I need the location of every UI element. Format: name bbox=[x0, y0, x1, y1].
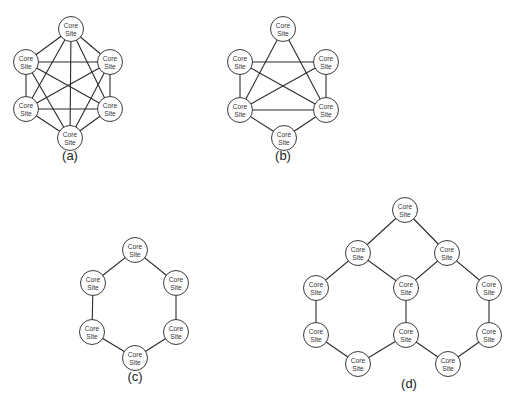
node-circle bbox=[58, 126, 83, 151]
node-label-line1: Core bbox=[351, 246, 366, 253]
core-site-node-left-mid: CoreSite bbox=[304, 276, 329, 301]
node-label-line1: Core bbox=[277, 131, 292, 138]
core-site-node-right-mid: CoreSite bbox=[477, 276, 502, 301]
node-circle bbox=[314, 50, 339, 75]
node-label-line2: Site bbox=[104, 63, 116, 70]
node-circle bbox=[436, 352, 461, 377]
node-label-line2: Site bbox=[320, 63, 332, 70]
node-circle bbox=[81, 271, 106, 296]
diagram-partially-meshed: CoreSiteCoreSiteCoreSiteCoreSiteCoreSite… bbox=[228, 17, 339, 164]
node-circle bbox=[98, 50, 123, 75]
core-site-node-center: CoreSite bbox=[394, 276, 419, 301]
node-circle bbox=[164, 271, 189, 296]
diagram-caption-d: (d) bbox=[401, 376, 417, 391]
node-label-line1: Core bbox=[64, 22, 79, 29]
node-circle bbox=[271, 17, 296, 42]
node-label-line2: Site bbox=[352, 365, 364, 372]
node-circle bbox=[435, 241, 460, 266]
node-label-line1: Core bbox=[319, 55, 334, 62]
node-circle bbox=[164, 320, 189, 345]
core-site-node-top: CoreSite bbox=[393, 198, 418, 223]
core-site-node-upper-left: CoreSite bbox=[228, 50, 253, 75]
node-label-line1: Core bbox=[351, 357, 366, 364]
node-label-line1: Core bbox=[233, 55, 248, 62]
node-label-line1: Core bbox=[398, 203, 413, 210]
diagram-fully-meshed: CoreSiteCoreSiteCoreSiteCoreSiteCoreSite… bbox=[14, 17, 123, 164]
node-label-line1: Core bbox=[19, 102, 34, 109]
core-site-node-bottom-left: CoreSite bbox=[346, 352, 371, 377]
node-label-line2: Site bbox=[234, 63, 246, 70]
diagram-ring: CoreSiteCoreSiteCoreSiteCoreSiteCoreSite… bbox=[80, 238, 189, 385]
diagram-caption-b: (b) bbox=[275, 148, 291, 163]
node-label-line2: Site bbox=[352, 254, 364, 261]
nodes: CoreSiteCoreSiteCoreSiteCoreSiteCoreSite… bbox=[80, 238, 189, 371]
node-label-line2: Site bbox=[86, 333, 98, 340]
node-circle bbox=[123, 346, 148, 371]
node-label-line2: Site bbox=[483, 289, 495, 296]
edges bbox=[240, 29, 326, 138]
core-site-node-bottom: CoreSite bbox=[272, 126, 297, 151]
core-site-node-upper-right: CoreSite bbox=[435, 241, 460, 266]
node-label-line1: Core bbox=[482, 281, 497, 288]
node-label-line2: Site bbox=[399, 211, 411, 218]
node-label-line2: Site bbox=[400, 336, 412, 343]
node-label-line1: Core bbox=[276, 22, 291, 29]
node-label-line2: Site bbox=[20, 110, 32, 117]
node-label-line2: Site bbox=[310, 336, 322, 343]
core-site-node-top: CoreSite bbox=[123, 238, 148, 263]
node-circle bbox=[98, 97, 123, 122]
node-circle bbox=[314, 98, 339, 123]
node-label-line2: Site bbox=[20, 63, 32, 70]
nodes: CoreSiteCoreSiteCoreSiteCoreSiteCoreSite… bbox=[228, 17, 339, 151]
node-circle bbox=[346, 241, 371, 266]
node-label-line2: Site bbox=[441, 254, 453, 261]
node-circle bbox=[123, 238, 148, 263]
node-label-line1: Core bbox=[85, 325, 100, 332]
node-label-line2: Site bbox=[310, 289, 322, 296]
node-circle bbox=[59, 17, 84, 42]
node-label-line1: Core bbox=[86, 276, 101, 283]
node-circle bbox=[304, 323, 329, 348]
core-site-node-left-lower: CoreSite bbox=[304, 323, 329, 348]
node-label-line2: Site bbox=[234, 111, 246, 118]
core-site-node-right-lower: CoreSite bbox=[477, 323, 502, 348]
core-site-node-bottom: CoreSite bbox=[58, 126, 83, 151]
node-label-line1: Core bbox=[128, 243, 143, 250]
core-site-node-lower-right: CoreSite bbox=[314, 98, 339, 123]
core-site-node-upper-right: CoreSite bbox=[98, 50, 123, 75]
core-site-node-center-lower: CoreSite bbox=[394, 323, 419, 348]
node-label-line1: Core bbox=[309, 328, 324, 335]
node-label-line1: Core bbox=[103, 102, 118, 109]
node-label-line1: Core bbox=[319, 103, 334, 110]
node-label-line2: Site bbox=[64, 139, 76, 146]
node-circle bbox=[228, 98, 253, 123]
node-label-line1: Core bbox=[440, 246, 455, 253]
node-circle bbox=[393, 198, 418, 223]
core-site-node-bottom-right: CoreSite bbox=[436, 352, 461, 377]
node-circle bbox=[14, 97, 39, 122]
node-circle bbox=[14, 50, 39, 75]
node-label-line1: Core bbox=[399, 281, 414, 288]
node-label-line2: Site bbox=[104, 110, 116, 117]
node-circle bbox=[272, 126, 297, 151]
node-circle bbox=[394, 323, 419, 348]
node-label-line2: Site bbox=[170, 333, 182, 340]
diagram-caption-c: (c) bbox=[127, 369, 142, 384]
node-circle bbox=[477, 276, 502, 301]
edges bbox=[26, 29, 110, 138]
node-label-line2: Site bbox=[400, 289, 412, 296]
node-label-line1: Core bbox=[63, 131, 78, 138]
node-label-line2: Site bbox=[442, 365, 454, 372]
core-site-node-lower-right: CoreSite bbox=[98, 97, 123, 122]
node-label-line2: Site bbox=[277, 30, 289, 37]
node-label-line2: Site bbox=[278, 139, 290, 146]
edges bbox=[92, 250, 176, 358]
diagram-multi-ring: CoreSiteCoreSiteCoreSiteCoreSiteCoreSite… bbox=[304, 198, 502, 392]
node-label-line1: Core bbox=[233, 103, 248, 110]
node-label-line1: Core bbox=[441, 357, 456, 364]
node-label-line1: Core bbox=[19, 55, 34, 62]
node-label-line2: Site bbox=[87, 284, 99, 291]
node-label-line1: Core bbox=[309, 281, 324, 288]
nodes: CoreSiteCoreSiteCoreSiteCoreSiteCoreSite… bbox=[14, 17, 123, 151]
node-label-line2: Site bbox=[129, 359, 141, 366]
